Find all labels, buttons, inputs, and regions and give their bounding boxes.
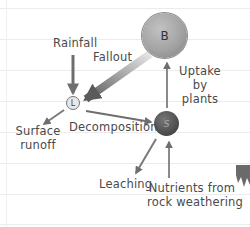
node-s-label: S [164, 119, 170, 129]
surface-runoff-arrow [44, 110, 64, 124]
node-l-litter: L [66, 96, 80, 110]
nutrients-line-1: Nutrients from [147, 181, 237, 195]
rainfall-label: Rainfall [53, 36, 97, 50]
leaching-arrow [136, 139, 156, 173]
node-s-soil: S [154, 111, 179, 136]
decomposition-label: Decomposition [69, 120, 158, 134]
uptake-label: Uptake by plants [175, 64, 225, 106]
uptake-line-2: by [175, 78, 225, 92]
nutrients-weathering-label: Nutrients from rock weathering [147, 181, 237, 209]
nutrient-cycle-diagram: B S L Rainfall Fallout Uptake by plants … [0, 0, 250, 227]
leaching-label: Leaching [99, 177, 152, 191]
node-l-label: L [71, 99, 75, 108]
fallout-label: Fallout [93, 50, 132, 64]
surface-runoff-line-2: runoff [14, 138, 62, 152]
nutrients-line-2: rock weathering [147, 195, 237, 209]
cropped-shape-icon [236, 165, 250, 187]
node-b-label: B [160, 29, 168, 43]
surface-runoff-line-1: Surface [14, 124, 62, 138]
node-b-biomass: B [142, 13, 187, 58]
surface-runoff-label: Surface runoff [14, 124, 62, 152]
uptake-line-3: plants [175, 92, 225, 106]
uptake-line-1: Uptake [175, 64, 225, 78]
